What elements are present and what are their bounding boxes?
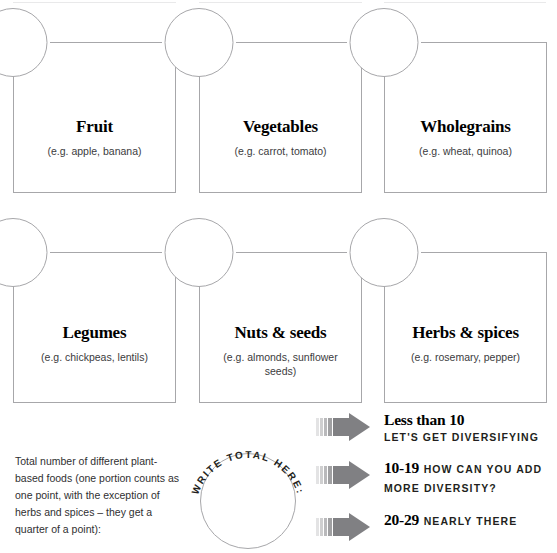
score-message: NEARLY THERE [424,515,518,527]
score-row: 10-19 HOW CAN YOU ADD MORE DIVERSITY? [316,458,557,497]
score-text: Less than 10 LET'S GET DIVERSIFYING [384,410,557,445]
plant-diversity-worksheet: Fruit (e.g. apple, banana) Vegetables (e… [0,0,557,553]
card-labels: Herbs & spices (e.g. rosemary, pepper) [384,252,547,364]
card-labels: Vegetables (e.g. carrot, tomato) [199,42,362,158]
write-total-text: WRITE TOTAL HERE: [189,449,306,496]
score-range: Less than 10 [384,411,557,429]
card-title: Wholegrains [384,118,547,137]
score-range: 10-19 [384,459,419,476]
card-examples: (e.g. almonds, sunflower seeds) [199,350,362,378]
score-text: 10-19 HOW CAN YOU ADD MORE DIVERSITY? [384,458,557,497]
card-title: Nuts & seeds [199,324,362,343]
card-examples: (e.g. carrot, tomato) [199,144,362,158]
score-message: LET'S GET DIVERSIFYING [384,430,557,445]
score-range: 20-29 [384,511,419,528]
card-title: Vegetables [199,118,362,137]
score-row: Less than 10 LET'S GET DIVERSIFYING [316,410,557,445]
top-bleed-line [199,2,362,3]
score-row: 20-29 NEARLY THERE [316,510,557,544]
write-total-arc-label: WRITE TOTAL HERE: [193,432,303,553]
card-title: Herbs & spices [384,324,547,343]
card-title: Legumes [13,324,176,343]
card-labels: Wholegrains (e.g. wheat, quinoa) [384,42,547,158]
arrow-icon [316,412,372,442]
score-legend: Less than 10 LET'S GET DIVERSIFYING 10-1… [316,410,557,553]
card-examples: (e.g. rosemary, pepper) [384,350,547,364]
total-instructions: Total number of different plant-based fo… [15,453,185,538]
top-bleed-line [384,2,546,3]
arrow-icon [316,512,372,542]
score-text: 20-29 NEARLY THERE [384,510,557,530]
card-labels: Nuts & seeds (e.g. almonds, sunflower se… [199,252,362,378]
write-total-group[interactable]: WRITE TOTAL HERE: [193,432,303,553]
card-labels: Legumes (e.g. chickpeas, lentils) [13,252,176,364]
arrow-icon [316,460,372,490]
card-examples: (e.g. wheat, quinoa) [384,144,547,158]
top-bleed-line [13,2,176,3]
card-title: Fruit [13,118,176,137]
card-labels: Fruit (e.g. apple, banana) [13,42,176,158]
card-examples: (e.g. apple, banana) [13,144,176,158]
card-examples: (e.g. chickpeas, lentils) [13,350,176,364]
